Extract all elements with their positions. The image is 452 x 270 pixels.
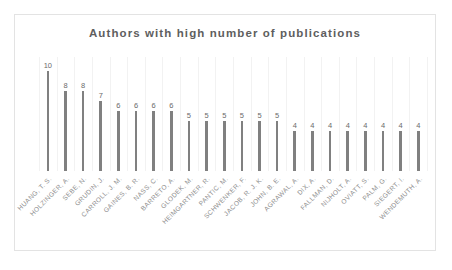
chart-container: Authors with high number of publications… <box>14 14 436 251</box>
bar-value-label: 5 <box>275 112 279 120</box>
bar-value-label: 6 <box>134 102 138 110</box>
bar-rect[interactable] <box>241 121 244 171</box>
bar-value-label: 4 <box>416 122 420 130</box>
bar-item[interactable]: 4 <box>392 57 410 171</box>
bar-rect[interactable] <box>311 131 314 171</box>
bar-item[interactable]: 5 <box>215 57 233 171</box>
bar-value-label: 4 <box>310 122 314 130</box>
bar-rect[interactable] <box>82 91 85 171</box>
x-label-slot: SIEGERT, I. <box>392 173 410 251</box>
bar-value-label: 4 <box>293 122 297 130</box>
bar-item[interactable]: 8 <box>57 57 75 171</box>
bar-rect[interactable] <box>329 131 332 171</box>
bar-rect[interactable] <box>99 101 102 171</box>
bar-item[interactable]: 6 <box>145 57 163 171</box>
bar-value-label: 6 <box>152 102 156 110</box>
bar-rect[interactable] <box>152 111 155 171</box>
bar-item[interactable]: 4 <box>339 57 357 171</box>
bar-item[interactable]: 5 <box>251 57 269 171</box>
bar-value-label: 4 <box>399 122 403 130</box>
bar-rect[interactable] <box>64 91 67 171</box>
bar-series: 10887666655555544444444 <box>39 57 427 171</box>
bar-value-label: 8 <box>81 82 85 90</box>
bar-item[interactable]: 6 <box>127 57 145 171</box>
plot-area: 10887666655555544444444 <box>39 57 427 171</box>
bar-value-label: 5 <box>257 112 261 120</box>
bar-item[interactable]: 5 <box>268 57 286 171</box>
bar-item[interactable]: 5 <box>180 57 198 171</box>
x-label-slot: WENDEMUTH, A. <box>409 173 427 251</box>
bar-rect[interactable] <box>188 121 191 171</box>
bar-item[interactable]: 5 <box>233 57 251 171</box>
chart-title: Authors with high number of publications <box>15 27 435 39</box>
bar-item[interactable]: 4 <box>357 57 375 171</box>
bar-rect[interactable] <box>417 131 420 171</box>
bar-item[interactable]: 4 <box>321 57 339 171</box>
bar-value-label: 5 <box>205 112 209 120</box>
bar-item[interactable]: 7 <box>92 57 110 171</box>
x-label-slot: GAINES, B. R. <box>127 173 145 251</box>
bar-rect[interactable] <box>258 121 261 171</box>
bar-value-label: 7 <box>99 92 103 100</box>
bar-item[interactable]: 6 <box>162 57 180 171</box>
bar-item[interactable]: 5 <box>198 57 216 171</box>
bar-value-label: 6 <box>116 102 120 110</box>
bar-value-label: 6 <box>169 102 173 110</box>
bar-value-label: 10 <box>44 62 52 70</box>
bar-rect[interactable] <box>135 111 138 171</box>
x-axis-labels: HUANG, T. S.HOLZINGER, A.SEBE, N.GRUDIN,… <box>39 173 427 251</box>
bar-rect[interactable] <box>364 131 367 171</box>
bar-value-label: 4 <box>363 122 367 130</box>
bar-value-label: 5 <box>222 112 226 120</box>
bar-value-label: 5 <box>187 112 191 120</box>
bar-value-label: 4 <box>346 122 350 130</box>
bar-item[interactable]: 4 <box>409 57 427 171</box>
bar-item[interactable]: 4 <box>304 57 322 171</box>
bar-rect[interactable] <box>382 131 385 171</box>
bar-item[interactable]: 4 <box>374 57 392 171</box>
bar-item[interactable]: 4 <box>286 57 304 171</box>
bar-rect[interactable] <box>47 71 50 171</box>
bar-value-label: 4 <box>328 122 332 130</box>
bar-rect[interactable] <box>223 121 226 171</box>
bar-item[interactable]: 6 <box>110 57 128 171</box>
bar-rect[interactable] <box>293 131 296 171</box>
bar-rect[interactable] <box>346 131 349 171</box>
bar-rect[interactable] <box>170 111 173 171</box>
bar-item[interactable]: 8 <box>74 57 92 171</box>
bar-rect[interactable] <box>117 111 120 171</box>
bar-value-label: 4 <box>381 122 385 130</box>
bar-item[interactable]: 10 <box>39 57 57 171</box>
bar-value-label: 8 <box>63 82 67 90</box>
gridline <box>427 57 428 171</box>
bar-rect[interactable] <box>276 121 279 171</box>
bar-rect[interactable] <box>205 121 208 171</box>
bar-rect[interactable] <box>399 131 402 171</box>
bar-value-label: 5 <box>240 112 244 120</box>
